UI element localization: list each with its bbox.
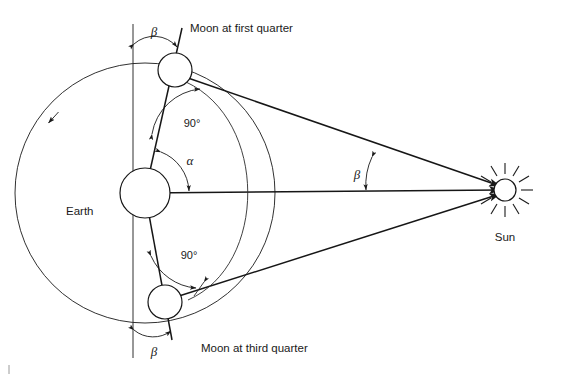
right-angle-lower-label: 90° [181,249,198,261]
sun-label: Sun [495,231,515,243]
moon-first-quarter-label: Moon at first quarter [190,22,293,34]
beta-top-label: β [150,24,158,39]
moon-third-quarter-body [148,285,182,319]
sun-body [494,179,516,201]
beta-sun-label: β [353,167,361,182]
beta-sun-arc [366,157,372,190]
earth-body [120,168,170,218]
beta-bottom-label: β [150,344,158,359]
earth-label: Earth [66,205,94,217]
right-angle-upper-label: 90° [184,117,201,129]
earth-to-sun-line [145,190,500,193]
moon-path-arc [186,82,248,300]
moon-third-quarter-label: Moon at third quarter [201,342,308,354]
orbit-direction-arrow [49,112,59,123]
moon-first-quarter-body [158,53,192,87]
beta-bottom-arc [134,330,171,337]
figure-canvas: Moon at first quarter Moon at third quar… [0,0,567,379]
earth-moon-sun-diagram: Moon at first quarter Moon at third quar… [0,0,567,379]
third-quarter-moon-to-sun-line [179,194,500,296]
alpha-angle-label: α [187,153,195,168]
